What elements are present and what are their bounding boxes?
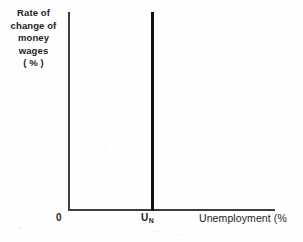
scan-artifact	[18, 226, 21, 229]
y-axis-label-line: Rate of	[2, 7, 65, 20]
x-axis-line	[68, 209, 275, 211]
y-axis-line	[68, 12, 70, 211]
y-axis-label: Rate of change of money wages ( % )	[2, 7, 65, 70]
tick-un-subscript: N	[149, 217, 154, 224]
scan-artifact	[104, 148, 106, 150]
phillips-curve-figure: Rate of change of money wages ( % ) 0 UN…	[0, 0, 303, 242]
y-axis-label-line: money	[2, 32, 65, 45]
scan-artifact	[176, 234, 185, 235]
tick-un-base: U	[141, 212, 148, 223]
y-axis-label-line: wages	[2, 45, 65, 58]
origin-label: 0	[56, 212, 62, 223]
y-axis-label-line: ( % )	[2, 57, 65, 70]
x-axis-label: Unemployment (%	[199, 212, 287, 224]
scan-artifact	[125, 167, 128, 168]
scan-artifact	[200, 152, 202, 153]
long-run-phillips-curve	[151, 12, 154, 211]
scan-artifact	[147, 231, 159, 232]
scan-artifact	[96, 174, 98, 175]
y-axis-label-line: change of	[2, 20, 65, 33]
x-axis-tick-label-un: UN	[141, 212, 154, 223]
